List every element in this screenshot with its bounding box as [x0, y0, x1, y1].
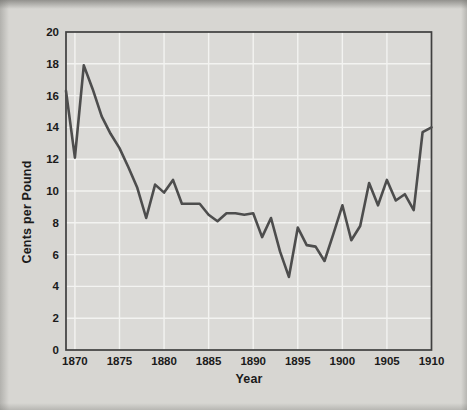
y-tick-label: 0 [53, 344, 59, 356]
x-axis-title: Year [66, 372, 432, 386]
y-tick-label: 18 [46, 58, 59, 70]
x-tick-label: 1905 [374, 355, 400, 367]
price-line-chart: 0246810121416182018701875188018851890189… [0, 0, 467, 410]
x-tick-label: 1890 [240, 355, 266, 367]
y-tick-label: 12 [46, 153, 59, 165]
y-tick-label: 2 [53, 312, 59, 324]
y-axis-title: Cents per Pound [20, 160, 34, 263]
x-tick-label: 1900 [330, 355, 356, 367]
x-tick-label: 1885 [196, 355, 222, 367]
x-tick-label: 1895 [285, 355, 311, 367]
x-tick-label: 1875 [107, 355, 133, 367]
x-tick-label: 1880 [151, 355, 177, 367]
y-tick-label: 6 [53, 249, 59, 261]
cotton-price-figure: 0246810121416182018701875188018851890189… [0, 0, 467, 410]
y-tick-label: 16 [46, 90, 59, 102]
x-tick-label: 1910 [419, 355, 445, 367]
y-tick-label: 10 [46, 185, 59, 197]
y-tick-label: 8 [53, 217, 60, 229]
y-tick-label: 4 [53, 280, 60, 292]
y-tick-label: 20 [46, 26, 59, 38]
y-tick-label: 14 [46, 121, 59, 133]
x-tick-label: 1870 [62, 355, 88, 367]
